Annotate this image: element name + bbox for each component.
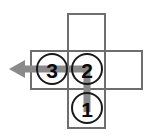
node-2-label: 2: [81, 59, 93, 82]
node-3-label: 3: [46, 59, 58, 82]
node-1-label: 1: [81, 98, 93, 121]
cell-top: [68, 14, 105, 51]
diagram-canvas: 1 2 3: [0, 0, 152, 140]
cell-middle-right: [105, 51, 142, 89]
grid-path-diagram: 1 2 3: [0, 0, 152, 140]
arrow-left-icon: [9, 60, 25, 78]
